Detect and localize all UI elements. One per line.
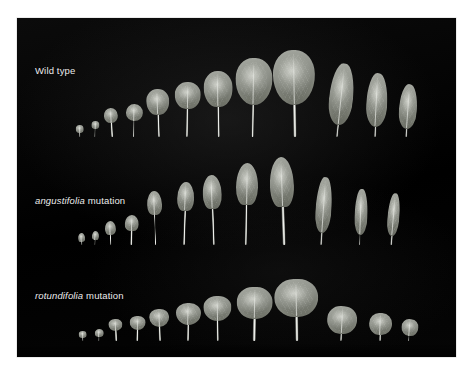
leaf-blade xyxy=(78,331,86,338)
leaf-veins xyxy=(371,314,389,334)
leaf-rotundifolia-mutation-7 xyxy=(202,296,233,342)
leaf-veins xyxy=(207,298,229,320)
leaf-rotundifolia-mutation-1 xyxy=(77,331,88,342)
leaf-rotundifolia-mutation-8 xyxy=(235,287,274,342)
leaf-veins xyxy=(151,310,167,326)
leaf-rotundifolia-mutation-9 xyxy=(273,279,320,342)
petiole xyxy=(295,314,298,341)
label-text: mutation xyxy=(83,290,123,301)
leaf-rotundifolia-mutation-4 xyxy=(128,316,147,342)
leaf-series-figure: Wild typeangustifolia mutationrotundifol… xyxy=(0,0,468,373)
species-name: rotundifolia xyxy=(35,290,83,301)
leaf-rotundifolia-mutation-2 xyxy=(93,329,104,341)
leaf-blade xyxy=(175,303,200,325)
leaf-veins xyxy=(79,331,85,337)
leaf-blade xyxy=(236,287,273,320)
leaf-blade xyxy=(203,296,231,321)
leaf-rotundifolia-mutation-10 xyxy=(325,305,359,342)
leaf-blade xyxy=(400,318,418,336)
row-label-rotundifolia-mutation: rotundifolia mutation xyxy=(35,290,124,301)
leaf-blade xyxy=(326,305,357,335)
petiole xyxy=(253,316,256,341)
leaf-row-rotundifolia-mutation: rotundifolia mutation xyxy=(17,18,456,357)
leaf-veins xyxy=(402,320,416,335)
leaf-rotundifolia-mutation-6 xyxy=(174,303,202,341)
leaf-blade xyxy=(274,279,319,318)
leaf-blade xyxy=(129,316,145,331)
leaf-blade xyxy=(94,329,103,337)
leaf-veins xyxy=(95,330,102,337)
leaf-veins xyxy=(330,308,354,333)
leaf-blade xyxy=(108,319,122,331)
leaf-veins xyxy=(110,320,121,331)
leaf-rotundifolia-mutation-3 xyxy=(107,319,124,342)
leaf-veins xyxy=(178,305,197,324)
leaf-blade xyxy=(149,309,170,328)
leaf-rotundifolia-mutation-11 xyxy=(367,313,393,342)
leaf-veins xyxy=(279,282,313,315)
leaf-rotundifolia-mutation-5 xyxy=(148,309,171,342)
leaf-blade xyxy=(368,313,392,336)
leaf-rotundifolia-mutation-12 xyxy=(399,318,419,341)
leaf-veins xyxy=(131,317,144,329)
leaf-veins xyxy=(241,289,269,317)
photographic-plate: Wild typeangustifolia mutationrotundifol… xyxy=(17,18,456,357)
petiole xyxy=(216,318,219,341)
